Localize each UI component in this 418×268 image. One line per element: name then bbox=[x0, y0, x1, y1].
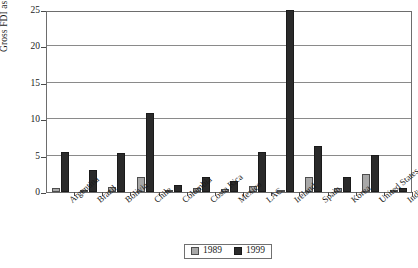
x-axis-label: Mexico bbox=[236, 197, 242, 205]
bar-argentina-1999 bbox=[61, 152, 69, 192]
bar-korea-1999 bbox=[343, 177, 351, 192]
legend: 1989 1999 bbox=[184, 244, 272, 259]
bars-layer bbox=[47, 12, 411, 192]
bar-chart: Gross FDI as % of GDP (PPP) 0510152025 A… bbox=[0, 0, 418, 268]
x-axis-label: Argentina bbox=[67, 197, 73, 205]
y-tick-label: 5 bbox=[18, 152, 40, 162]
bar-group bbox=[300, 12, 328, 192]
plot-area bbox=[46, 11, 412, 193]
bar-group bbox=[244, 12, 272, 192]
x-axis-label: Spain bbox=[320, 197, 326, 205]
bar-group bbox=[160, 12, 188, 192]
y-tick-label: 25 bbox=[18, 6, 40, 16]
x-axis-label: Bolivia bbox=[123, 197, 129, 205]
y-tick-label: 0 bbox=[18, 188, 40, 198]
bar-bolivia-1999 bbox=[117, 153, 125, 192]
x-axis-label: Costa Rica bbox=[208, 197, 214, 205]
bar-group bbox=[216, 12, 244, 192]
x-axis-label: United States bbox=[377, 197, 383, 205]
bar-group bbox=[75, 12, 103, 192]
y-axis-title: Gross FDI as % of GDP (PPP) bbox=[0, 0, 9, 52]
bar-group bbox=[385, 12, 413, 192]
bar-chile-1999 bbox=[146, 113, 154, 192]
bar-colombia-1999 bbox=[174, 185, 182, 192]
legend-swatch-icon-1989 bbox=[191, 247, 199, 255]
x-axis-label: Brazil bbox=[95, 197, 101, 205]
x-axis-label: Colombia bbox=[180, 197, 186, 205]
legend-item-1999: 1999 bbox=[234, 246, 265, 256]
x-axis-label: Korea bbox=[349, 197, 355, 205]
y-tick-label: 15 bbox=[18, 79, 40, 89]
bar-group bbox=[188, 12, 216, 192]
bar-group bbox=[329, 12, 357, 192]
legend-label-1989: 1989 bbox=[203, 246, 222, 256]
bar-group bbox=[131, 12, 159, 192]
bar-group bbox=[47, 12, 75, 192]
legend-item-1989: 1989 bbox=[191, 246, 222, 256]
y-tick-mark bbox=[41, 193, 46, 194]
x-axis-label: LAC bbox=[264, 197, 270, 205]
bar-spain-1999 bbox=[314, 146, 322, 192]
bar-ireland-1999 bbox=[286, 10, 294, 192]
x-axis-label: India bbox=[405, 197, 411, 205]
bar-group bbox=[272, 12, 300, 192]
bar-united-states-1999 bbox=[371, 155, 379, 192]
y-tick-label: 10 bbox=[18, 115, 40, 125]
bar-group bbox=[103, 12, 131, 192]
legend-swatch-icon-1999 bbox=[234, 247, 242, 255]
bar-argentina-1989 bbox=[52, 188, 60, 192]
y-tick-label: 20 bbox=[18, 42, 40, 52]
x-axis-label: Ireland bbox=[292, 197, 298, 205]
bar-group bbox=[357, 12, 385, 192]
legend-label-1999: 1999 bbox=[246, 246, 265, 256]
x-axis-label: Chile bbox=[152, 197, 158, 205]
